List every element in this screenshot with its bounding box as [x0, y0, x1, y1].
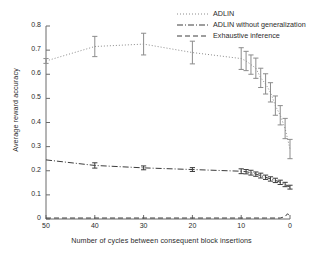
x-tick-label: 20: [182, 222, 202, 229]
y-tick-label: 0.4: [17, 118, 41, 125]
series-adlin-without-generalization: [46, 160, 293, 189]
x-tick-label: 50: [36, 222, 56, 229]
series-adlin: [43, 33, 292, 158]
y-tick-label: 0.3: [17, 142, 41, 149]
y-axis-label: Average reward accuracy: [11, 10, 20, 210]
chart-legend: ADLIN ADLIN without generalization Exhau…: [176, 8, 320, 41]
legend-swatch-dashdot: [176, 20, 210, 30]
legend-item: ADLIN: [176, 8, 320, 19]
legend-label-exhaustive: Exhaustive inference: [210, 31, 280, 40]
legend-item: Exhaustive inference: [176, 30, 320, 41]
series-exhaustive-inference: [46, 214, 290, 218]
legend-label-adlin-nogen: ADLIN without generalization: [210, 20, 306, 29]
y-tick-label: 0: [17, 214, 41, 221]
x-tick-label: 30: [134, 222, 154, 229]
legend-item: ADLIN without generalization: [176, 19, 320, 30]
x-tick-label: 10: [231, 222, 251, 229]
legend-swatch-dashed: [176, 31, 210, 41]
x-tick-label: 0: [280, 222, 300, 229]
y-tick-label: 0.8: [17, 21, 41, 28]
y-tick-label: 0.1: [17, 190, 41, 197]
y-tick-label: 0.2: [17, 166, 41, 173]
chart-figure: 00.10.20.30.40.50.60.70.850403020100 Num…: [0, 0, 323, 256]
y-tick-label: 0.6: [17, 69, 41, 76]
y-tick-label: 0.7: [17, 45, 41, 52]
y-tick-label: 0.5: [17, 93, 41, 100]
data-series-layer: [43, 33, 292, 218]
x-tick-label: 40: [85, 222, 105, 229]
legend-swatch-dotted: [176, 9, 210, 19]
legend-label-adlin: ADLIN: [210, 9, 234, 18]
x-axis-label: Number of cycles between consequent bloc…: [0, 236, 323, 245]
